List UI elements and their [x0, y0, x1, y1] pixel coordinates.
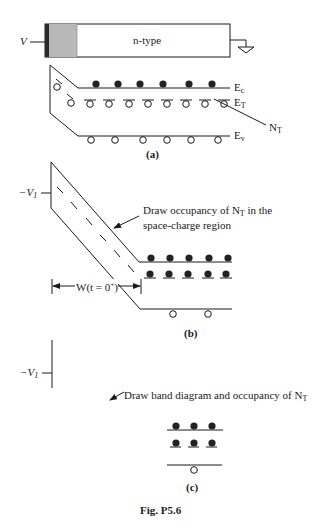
metal-gate [45, 24, 49, 57]
oxide-layer [49, 24, 77, 57]
panel-a-label: (a) [146, 148, 159, 161]
ec-label: Ec [234, 81, 244, 97]
figure-caption: Fig. P5.6 [140, 504, 181, 517]
et-label: ET [234, 96, 246, 112]
nt-sub: T [277, 126, 282, 135]
et-sub: T [241, 101, 246, 110]
panel-c-voltage-label: −V1 [20, 366, 38, 382]
panel-b-voltage-label: −V1 [19, 186, 37, 202]
ann-c-pre: Draw band diagram and occupancy of N [124, 389, 302, 401]
ann-c-sub: T [302, 394, 307, 403]
ev-sub: v [241, 134, 245, 143]
ec-text: E [234, 81, 241, 93]
panel-c-annotation: Draw band diagram and occupancy of NT [124, 389, 307, 405]
ann-b-pre: Draw occupancy of N [143, 204, 240, 216]
region-label: n-type [133, 34, 161, 47]
ground-icon [230, 40, 254, 53]
vb-sub: 1 [33, 191, 37, 200]
w-post: ) [114, 281, 118, 293]
panel-c-label: (c) [186, 481, 198, 494]
ec-sub: c [241, 86, 245, 95]
valence-holes [88, 137, 222, 144]
ev-label: Ev [234, 129, 245, 145]
panel-c-carriers [172, 422, 215, 446]
conduction-electrons-a [92, 80, 215, 87]
nt-text: N [269, 121, 277, 133]
panel-b-annotation-line2: space-charge region [143, 219, 231, 232]
et-text: E [234, 96, 241, 108]
panel-b-band-diagram [41, 162, 232, 317]
w-pre: W(t = 0 [76, 281, 110, 293]
panel-c-band-diagram [42, 340, 223, 473]
annotation-arrow [114, 216, 139, 228]
panel-b-label: (b) [184, 327, 197, 340]
voltage-label: V [20, 35, 27, 48]
vc-text: −V [20, 366, 34, 378]
vb-text: −V [19, 186, 33, 198]
panel-b-annotation-line1: Draw occupancy of NT in the [143, 204, 272, 220]
panel-b-carriers [146, 254, 231, 277]
vc-sub: 1 [34, 371, 38, 380]
nt-label: NT [269, 121, 282, 137]
ann-b-post: in the [245, 204, 273, 216]
width-label: W(t = 0+) [76, 279, 118, 294]
figure-canvas [0, 0, 315, 531]
annotation-arrow [110, 392, 124, 400]
ev-text: E [234, 129, 241, 141]
